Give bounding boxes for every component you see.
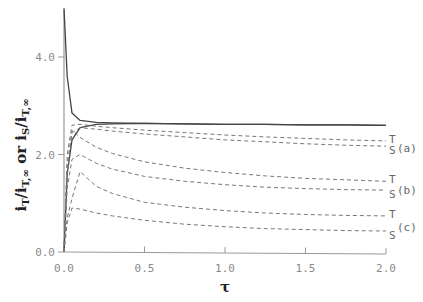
chart: 0.02.04.0 0.00.51.01.52.0 TS(a)TS(b)TS(c… — [0, 0, 423, 302]
plot-series — [64, 8, 386, 252]
series-a-t — [64, 124, 386, 252]
x-tick-label: 1.0 — [215, 262, 235, 275]
curve-label-t: T — [389, 173, 396, 186]
series-c-t — [64, 172, 386, 252]
x-tick-label: 1.5 — [296, 262, 316, 275]
y-tick-label: 2.0 — [35, 149, 55, 162]
curve-label-s: S — [389, 229, 396, 242]
x-axis-title: τ — [220, 278, 230, 296]
x-tick-label: 0.0 — [54, 262, 74, 275]
y-tick-label: 0.0 — [35, 246, 55, 259]
svg-text:iT/iT,∞ or iS/iT,∞: iT/iT,∞ or iS/iT,∞ — [12, 98, 32, 211]
series-b-t — [64, 130, 386, 252]
y-axis-title: iT/iT,∞ or iS/iT,∞ — [12, 98, 32, 211]
series-solid-rise — [64, 123, 386, 252]
series-b-s — [64, 155, 386, 253]
y-ticks: 0.02.04.0 — [35, 51, 64, 259]
curve-group-label: (b) — [397, 184, 417, 197]
curve-group-label: (a) — [397, 142, 417, 155]
curve-label-s: S — [389, 188, 396, 201]
curve-label-s: S — [389, 144, 396, 157]
y-tick-label: 4.0 — [35, 51, 55, 64]
x-tick-label: 0.5 — [135, 262, 155, 275]
x-tick-label: 2.0 — [376, 262, 396, 275]
x-ticks: 0.00.51.01.52.0 — [54, 246, 396, 275]
curve-group-label: (c) — [397, 221, 417, 234]
series-solid-decay — [64, 8, 386, 125]
curve-label-t: T — [389, 208, 396, 221]
series-c-s — [64, 208, 386, 252]
curve-labels: TS(a)TS(b)TS(c) — [389, 133, 417, 242]
axes — [64, 10, 386, 254]
